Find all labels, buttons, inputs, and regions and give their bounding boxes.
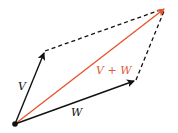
sum-label: V + W (96, 64, 133, 77)
dashed-side-right (136, 11, 164, 80)
dashed-side-top (45, 9, 163, 51)
v-label: V (18, 80, 27, 93)
origin-point (12, 121, 18, 127)
w-label: W (71, 106, 84, 119)
vector-addition-diagram: V W V + W (0, 0, 178, 133)
